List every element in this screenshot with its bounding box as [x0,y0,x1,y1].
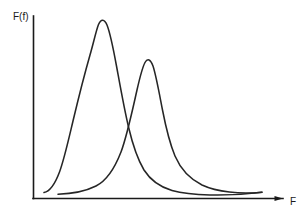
chart-figure: F(f) F [0,0,308,218]
y-axis-label: F(f) [13,11,29,22]
x-axis-label: F [290,196,296,207]
plot-background [0,0,308,218]
distribution-curves-plot: F(f) F [0,0,308,218]
